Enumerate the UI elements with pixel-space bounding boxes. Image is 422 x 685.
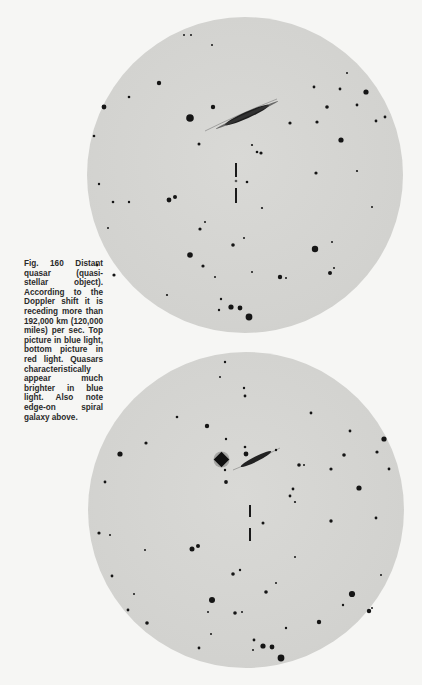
stars-bottom: [97, 361, 390, 662]
spiral-galaxy-icon: [205, 99, 279, 131]
figure-caption: Fig. 160 Distant quasar (quasi-stellar o…: [24, 259, 103, 422]
star-field-top: [87, 17, 403, 333]
star-field-bottom: [88, 352, 404, 668]
plate-red-light: [88, 352, 404, 668]
stars-top: [93, 34, 387, 320]
quasar-marker: [249, 505, 251, 541]
bright-star-icon: [214, 452, 230, 468]
spiral-galaxy-icon: [233, 448, 280, 470]
plate-blue-light: [87, 17, 403, 333]
quasar-marker: [235, 163, 238, 203]
